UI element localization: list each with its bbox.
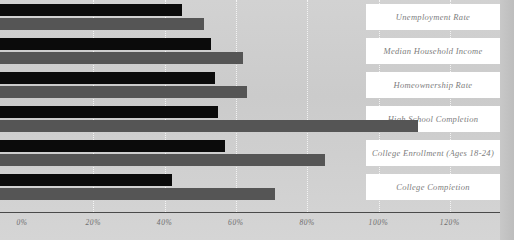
x-tick-label-0: 0% — [16, 218, 27, 227]
bar-4-series-1 — [0, 106, 218, 118]
category-label-text: Homeownership Rate — [394, 80, 473, 90]
bar-2-series-1 — [0, 38, 211, 50]
bar-chart: Unemployment RateMedian Household Income… — [0, 0, 514, 240]
gridline-120 — [450, 0, 452, 212]
bar-5-series-1 — [0, 140, 225, 152]
bar-1-series-1 — [0, 4, 182, 16]
gridline-100 — [379, 0, 381, 212]
x-axis-line — [0, 212, 500, 213]
category-label-text: College Enrollment (Ages 18-24) — [372, 148, 494, 158]
x-tick-label-60: 60% — [228, 218, 244, 227]
bar-5-series-2 — [0, 154, 325, 166]
bar-3-series-2 — [0, 86, 247, 98]
category-label-text: Unemployment Rate — [396, 12, 470, 22]
category-label-1: Unemployment Rate — [366, 4, 500, 30]
category-label-6: College Completion — [366, 174, 500, 200]
right-edge-shade — [500, 0, 514, 240]
bar-6-series-2 — [0, 188, 275, 200]
x-tick-label-20: 20% — [86, 218, 102, 227]
x-tick-label-100: 100% — [369, 218, 389, 227]
x-tick-label-80: 80% — [299, 218, 315, 227]
category-label-text: Median Household Income — [384, 46, 483, 56]
x-tick-label-40: 40% — [157, 218, 173, 227]
bar-1-series-2 — [0, 18, 204, 30]
category-label-2: Median Household Income — [366, 38, 500, 64]
x-tick-label-120: 120% — [440, 218, 460, 227]
category-label-text: College Completion — [396, 182, 470, 192]
category-label-3: Homeownership Rate — [366, 72, 500, 98]
bar-3-series-1 — [0, 72, 215, 84]
bar-6-series-1 — [0, 174, 172, 186]
plot-area: Unemployment RateMedian Household Income… — [0, 0, 514, 212]
bar-2-series-2 — [0, 52, 243, 64]
category-label-5: College Enrollment (Ages 18-24) — [366, 140, 500, 166]
gridline-60 — [236, 0, 238, 212]
gridline-80 — [307, 0, 309, 212]
bar-4-series-2 — [0, 120, 418, 132]
